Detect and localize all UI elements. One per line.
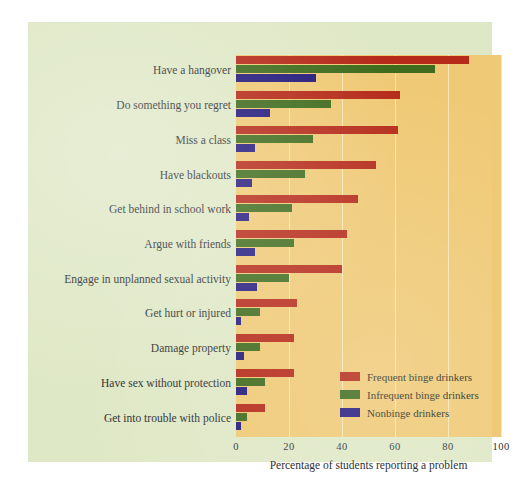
bar [236, 343, 260, 351]
bar-group [236, 230, 501, 256]
x-axis-tick: 20 [283, 441, 295, 452]
bar [236, 283, 257, 291]
bar [236, 100, 331, 108]
bar-group [236, 91, 501, 117]
bar [236, 56, 469, 64]
legend-swatch-icon [340, 408, 360, 417]
x-axis-tick: 0 [233, 441, 239, 452]
bar [236, 274, 289, 282]
chart-legend: Frequent binge drinkersInfrequent binge … [340, 370, 505, 424]
bar [236, 308, 260, 316]
bar-group [236, 265, 501, 291]
y-axis-label: Argue with friends [41, 238, 231, 250]
x-axis-tick: 100 [492, 441, 509, 452]
bar [236, 135, 313, 143]
bar [236, 422, 241, 430]
bar [236, 299, 297, 307]
y-axis-label: Do something you regret [41, 99, 231, 111]
y-axis-label: Have sex without protection [41, 377, 231, 389]
x-axis-title: Percentage of students reporting a probl… [236, 459, 501, 471]
bar [236, 213, 249, 221]
y-axis-label: Have blackouts [41, 169, 231, 181]
legend-label: Nonbinge drinkers [367, 407, 449, 419]
bar [236, 161, 376, 169]
bar [236, 65, 435, 73]
bar [236, 239, 294, 247]
x-axis-tick: 80 [442, 441, 454, 452]
bar [236, 404, 265, 412]
y-axis-label: Have a hangover [41, 64, 231, 76]
bar [236, 334, 294, 342]
bar [236, 248, 255, 256]
bar-group [236, 126, 501, 152]
bar-group [236, 334, 501, 360]
legend-item: Nonbinge drinkers [340, 406, 505, 419]
bar [236, 413, 247, 421]
y-axis-label: Get hurt or injured [41, 307, 231, 319]
x-axis-tick: 60 [389, 441, 401, 452]
y-axis-label: Damage property [41, 342, 231, 354]
bar [236, 144, 255, 152]
bar [236, 109, 270, 117]
bar-group [236, 56, 501, 82]
bar-group [236, 161, 501, 187]
bar [236, 204, 292, 212]
bar-group [236, 299, 501, 325]
bar [236, 74, 316, 82]
y-axis-label: Get into trouble with police [41, 412, 231, 424]
bar-group [236, 195, 501, 221]
legend-label: Infrequent binge drinkers [367, 389, 479, 401]
legend-item: Frequent binge drinkers [340, 370, 505, 383]
y-axis-label: Get behind in school work [41, 203, 231, 215]
bar [236, 378, 265, 386]
bar [236, 179, 252, 187]
bar [236, 317, 241, 325]
y-axis-category-labels: Have a hangoverDo something you regretMi… [38, 55, 231, 437]
bar [236, 195, 358, 203]
figure-panel: Have a hangoverDo something you regretMi… [28, 22, 492, 462]
bar [236, 387, 247, 395]
legend-swatch-icon [340, 372, 360, 381]
x-axis-tick: 40 [336, 441, 348, 452]
bar [236, 230, 347, 238]
bar [236, 170, 305, 178]
y-axis-label: Miss a class [41, 134, 231, 146]
legend-label: Frequent binge drinkers [367, 371, 472, 383]
x-axis-tick-labels: 020406080100 [236, 441, 501, 457]
y-axis-label: Engage in unplanned sexual activity [41, 273, 231, 285]
bar [236, 91, 400, 99]
bar [236, 369, 294, 377]
bar [236, 352, 244, 360]
bar [236, 265, 342, 273]
legend-item: Infrequent binge drinkers [340, 388, 505, 401]
legend-swatch-icon [340, 390, 360, 399]
bar [236, 126, 398, 134]
